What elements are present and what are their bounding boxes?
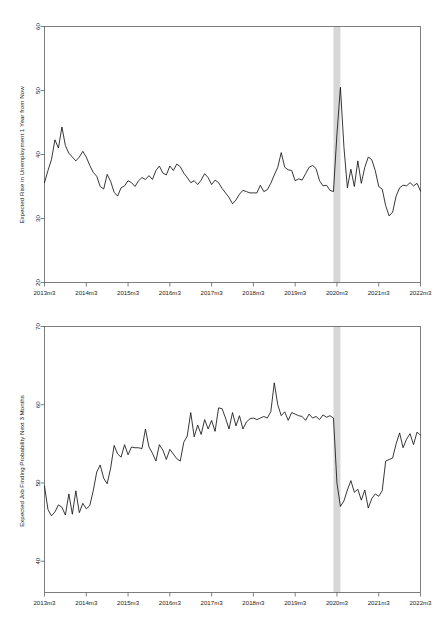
recession-band: [333, 327, 340, 593]
y-axis-tick-labels-bottom: 40506070: [34, 323, 41, 565]
y-axis-ticks-bottom: [41, 327, 45, 562]
figure-container: 2030405060 2013m32014m32015m32016m32017m…: [0, 0, 437, 623]
x-tick-label: 2013m3: [33, 289, 56, 296]
x-tick-label: 2016m3: [159, 599, 182, 606]
y-tick-label: 40: [34, 557, 41, 564]
recession-band-group: [333, 27, 340, 283]
y-tick-label: 50: [34, 87, 41, 94]
x-tick-label: 2014m3: [75, 599, 98, 606]
x-tick-label: 2017m3: [201, 289, 224, 296]
x-tick-label: 2020m3: [326, 289, 349, 296]
x-tick-label: 2017m3: [201, 599, 224, 606]
unemployment-expectations-chart: 2030405060 2013m32014m32015m32016m32017m…: [0, 0, 437, 311]
plot-frame: [45, 27, 421, 283]
chart-panel-job-finding: 40506070 2013m32014m32015m32016m32017m32…: [0, 311, 437, 622]
recession-band: [333, 27, 340, 283]
chart-panel-unemployment: 2030405060 2013m32014m32015m32016m32017m…: [0, 0, 437, 311]
y-tick-label: 30: [34, 215, 41, 222]
y-tick-label: 50: [34, 479, 41, 486]
y-axis-title-job-finding: Expected Job Finding Probability Next 3 …: [18, 395, 25, 527]
y-tick-label: 20: [34, 279, 41, 286]
y-tick-label: 60: [34, 23, 41, 30]
x-tick-label: 2022m3: [409, 599, 432, 606]
x-tick-label: 2019m3: [284, 599, 307, 606]
x-tick-label: 2020m3: [326, 599, 349, 606]
y-tick-label: 70: [34, 323, 41, 330]
x-tick-label: 2016m3: [159, 289, 182, 296]
x-tick-label: 2014m3: [75, 289, 98, 296]
recession-band-group: [333, 327, 340, 593]
y-axis-ticks-top: [41, 27, 45, 283]
y-tick-label: 40: [34, 151, 41, 158]
job-finding-probability-chart: 40506070 2013m32014m32015m32016m32017m32…: [0, 311, 437, 623]
x-tick-label: 2015m3: [117, 599, 140, 606]
x-tick-label: 2015m3: [117, 289, 140, 296]
x-tick-label: 2018m3: [242, 599, 265, 606]
plot-frame: [45, 327, 421, 593]
y-axis-title-unemployment: Expected Rise in Unemployment 1 Year fro…: [18, 86, 25, 224]
x-axis-tick-labels-bottom: 2013m32014m32015m32016m32017m32018m32019…: [33, 599, 432, 606]
y-tick-label: 60: [34, 401, 41, 408]
x-axis-ticks-top: [45, 283, 421, 287]
x-tick-label: 2013m3: [33, 599, 56, 606]
x-tick-label: 2018m3: [242, 289, 265, 296]
x-tick-label: 2022m3: [409, 289, 432, 296]
x-tick-label: 2019m3: [284, 289, 307, 296]
data-line-unemployment: [45, 87, 421, 216]
x-tick-label: 2021m3: [368, 599, 391, 606]
y-axis-tick-labels-top: 2030405060: [34, 23, 41, 286]
data-line-job-finding: [45, 383, 421, 516]
x-axis-ticks-bottom: [45, 593, 421, 597]
x-axis-tick-labels-top: 2013m32014m32015m32016m32017m32018m32019…: [33, 289, 432, 296]
x-tick-label: 2021m3: [368, 289, 391, 296]
